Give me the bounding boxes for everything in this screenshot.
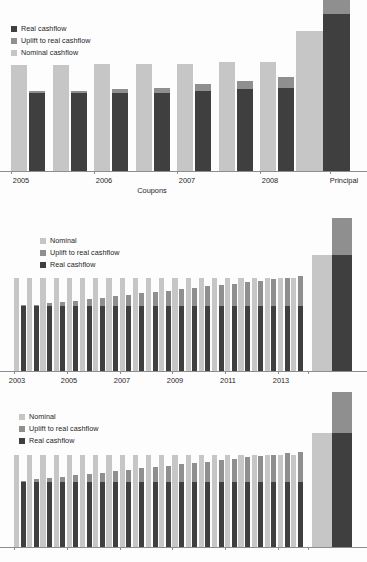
legend-label: Uplift to real cashflow — [29, 425, 98, 433]
bar-group — [291, 206, 303, 372]
legend-label: Uplift to real cashflow — [21, 37, 90, 45]
bar-nominal — [172, 455, 177, 548]
legend-item: Real cashflow — [19, 436, 98, 446]
bar-group — [291, 392, 303, 548]
bar-real-cashflow — [73, 475, 78, 548]
bar-real-cashflow — [60, 302, 65, 372]
bar-nominal — [40, 455, 45, 548]
bar-nominal — [146, 455, 151, 548]
bar-nominal — [146, 278, 151, 372]
bar-real-cashflow-principal — [323, 0, 350, 172]
x-axis-tick — [177, 171, 178, 174]
bar-segment-uplift — [139, 468, 144, 482]
bar-nominal — [136, 64, 152, 172]
bar-group-principal — [296, 0, 350, 172]
bar-real-cashflow — [113, 296, 118, 372]
bar-segment-uplift — [87, 299, 92, 306]
bar-real-cashflow-principal — [332, 392, 352, 548]
bar-nominal — [225, 278, 230, 372]
bar-segment-uplift — [126, 470, 131, 482]
bar-group — [94, 0, 128, 172]
x-axis-tick — [308, 371, 309, 374]
bar-segment-uplift — [258, 456, 263, 482]
bar-nominal — [278, 455, 283, 548]
bar-segment-uplift — [113, 471, 118, 482]
chart2-legend: Nominal Uplift to real cashflow Real cas… — [40, 236, 119, 272]
x-axis-tick — [120, 547, 121, 550]
bar-real-cashflow — [166, 291, 171, 372]
bar-nominal — [265, 455, 270, 548]
bar-segment-uplift — [179, 289, 184, 306]
x-axis-tick-label: 2008 — [262, 176, 278, 185]
x-axis-tick-label: 2005 — [13, 176, 29, 185]
bar-real-cashflow — [271, 455, 276, 548]
bar-nominal — [186, 278, 191, 372]
bar-real-cashflow — [126, 295, 131, 372]
legend-label: Nominal cashflow — [21, 49, 78, 57]
bar-real-cashflow — [219, 285, 224, 372]
bar-group — [219, 0, 253, 172]
x-axis-tick-label: 2006 — [96, 176, 112, 185]
bar-nominal — [106, 278, 111, 372]
bar-real-cashflow — [298, 276, 303, 372]
bar-group — [238, 392, 250, 548]
x-axis-tick — [260, 171, 261, 174]
bar-real-cashflow — [179, 464, 184, 548]
bar-group — [199, 206, 211, 372]
legend-swatch-real-cashflow — [11, 26, 17, 32]
bar-real-cashflow-principal — [332, 218, 352, 372]
x-axis-tick — [330, 171, 331, 174]
legend-label: Real cashflow — [21, 25, 66, 33]
bar-segment-uplift — [47, 478, 52, 482]
legend-item: Uplift to real cashflow — [11, 36, 90, 46]
bar-real-cashflow — [258, 456, 263, 548]
bar-group — [225, 206, 237, 372]
bar-segment-uplift — [100, 298, 105, 307]
bar-group — [265, 206, 277, 372]
bar-segment-uplift — [100, 473, 105, 483]
bar-segment-uplift — [232, 284, 237, 307]
bar-real-cashflow — [245, 282, 250, 372]
bar-nominal — [93, 278, 98, 372]
x-axis-tick — [308, 547, 309, 550]
legend-swatch-uplift — [40, 250, 46, 256]
x-axis-tick-label: 2007 — [114, 376, 130, 385]
bar-nominal — [40, 278, 45, 372]
legend-swatch-nominal — [19, 414, 25, 420]
bar-real-cashflow — [192, 288, 197, 372]
bar-real-cashflow — [237, 81, 253, 172]
bar-real-cashflow — [219, 460, 224, 548]
bar-segment-uplift — [192, 463, 197, 482]
bar-nominal — [225, 455, 230, 548]
bar-nominal — [186, 455, 191, 548]
bar-segment-uplift — [298, 452, 303, 482]
bar-nominal — [172, 278, 177, 372]
x-axis-tick-label: 2003 — [9, 376, 25, 385]
bar-real-cashflow — [298, 452, 303, 548]
bar-real-cashflow — [21, 305, 26, 372]
legend-item: Nominal — [19, 412, 98, 422]
bar-segment-uplift — [71, 91, 87, 93]
bar-segment-uplift — [166, 466, 171, 482]
bar-real-cashflow — [153, 292, 158, 372]
bar-group — [146, 206, 158, 372]
bar-nominal — [199, 278, 204, 372]
x-axis-tick — [14, 371, 15, 374]
bar-nominal — [14, 455, 19, 548]
chart1-legend: Real cashflow Uplift to real cashflow No… — [11, 24, 90, 60]
bar-real-cashflow — [139, 468, 144, 548]
x-axis-tick — [94, 171, 95, 174]
bar-group — [93, 206, 105, 372]
bar-nominal — [159, 455, 164, 548]
bar-segment-uplift — [245, 282, 250, 306]
x-axis-tick — [67, 371, 68, 374]
bar-real-cashflow — [112, 89, 128, 172]
bar-group — [186, 206, 198, 372]
bar-real-cashflow — [113, 471, 118, 548]
bar-segment-uplift — [166, 291, 171, 307]
bar-group — [212, 392, 224, 548]
bar-real-cashflow — [100, 473, 105, 549]
bar-real-cashflow — [192, 463, 197, 548]
bar-segment-uplift — [113, 296, 118, 306]
bar-group — [80, 206, 92, 372]
